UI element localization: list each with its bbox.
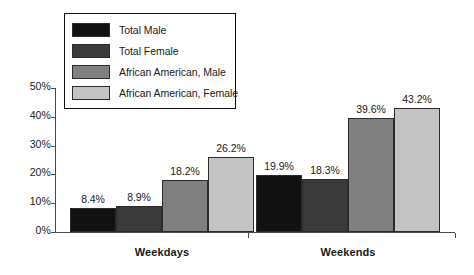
legend-label: Total Female xyxy=(119,45,179,57)
bar-slot: 8.4% xyxy=(70,208,116,232)
bar-slot: 43.2% xyxy=(394,108,440,232)
bar-value-label: 43.2% xyxy=(383,94,451,105)
x-axis-separator-tick xyxy=(248,233,249,238)
bar-slot: 39.6% xyxy=(348,118,394,232)
x-axis-category-label: Weekends xyxy=(288,246,408,258)
bar-group: 8.4%8.9%18.2%26.2% xyxy=(70,88,254,232)
bar-chart: 0%10%20%30%40%50% 8.4%8.9%18.2%26.2%19.9… xyxy=(0,0,474,275)
bar[interactable] xyxy=(302,179,348,232)
y-axis-tick-label: 20% xyxy=(30,167,51,178)
legend-item: Total Female xyxy=(72,40,229,61)
bar[interactable] xyxy=(70,208,116,232)
legend-item: African American, Female xyxy=(72,82,229,103)
legend-swatch-african-american-male xyxy=(72,65,110,79)
legend-label: African American, Male xyxy=(119,66,226,78)
legend-swatch-total-female xyxy=(72,44,110,58)
bar[interactable] xyxy=(256,175,302,232)
legend-swatch-african-american-female xyxy=(72,86,110,100)
legend-item: Total Male xyxy=(72,19,229,40)
y-axis-tick-label: 10% xyxy=(30,196,51,207)
legend-item: African American, Male xyxy=(72,61,229,82)
x-axis-separator-tick xyxy=(455,233,456,238)
legend-label: African American, Female xyxy=(119,87,238,99)
bar[interactable] xyxy=(348,118,394,232)
y-axis-tick-label: 40% xyxy=(30,110,51,121)
plot-area: 8.4%8.9%18.2%26.2%19.9%18.3%39.6%43.2% xyxy=(56,88,455,232)
y-axis-tick-label: 30% xyxy=(30,139,51,150)
bar[interactable] xyxy=(394,108,440,232)
bar-slot: 18.2% xyxy=(162,180,208,232)
y-axis-tick-label: 0% xyxy=(36,225,51,236)
chart-legend: Total Male Total Female African American… xyxy=(64,13,236,109)
y-axis-tick-label: 50% xyxy=(30,81,51,92)
y-axis-tick-mark xyxy=(51,232,56,233)
bar-slot: 18.3% xyxy=(302,179,348,232)
legend-label: Total Male xyxy=(119,24,166,36)
x-axis-category-label: Weekdays xyxy=(102,246,222,258)
x-axis-line xyxy=(55,232,455,233)
bar-group: 19.9%18.3%39.6%43.2% xyxy=(256,88,440,232)
bar[interactable] xyxy=(162,180,208,232)
bar-slot: 8.9% xyxy=(116,206,162,232)
legend-swatch-total-male xyxy=(72,23,110,37)
bar-slot: 19.9% xyxy=(256,175,302,232)
bar[interactable] xyxy=(116,206,162,232)
bar-value-label: 26.2% xyxy=(197,143,265,154)
